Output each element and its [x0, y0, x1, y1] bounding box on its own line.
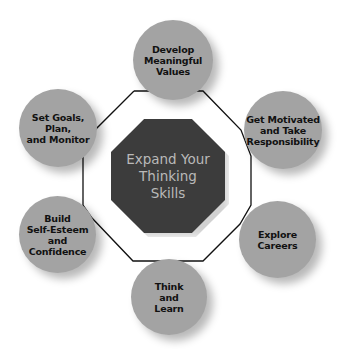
- node-label: Set Goals, Plan, and Monitor: [19, 112, 97, 145]
- node-explore-careers: Explore Careers: [239, 201, 316, 278]
- node-develop-values: Develop Meaningful Values: [133, 20, 213, 100]
- node-label: Think and Learn: [154, 281, 183, 314]
- node-get-motivated: Get Motivated and Take Responsibility: [244, 91, 322, 169]
- node-label: Build Self-Esteem and Confidence: [27, 213, 89, 257]
- node-think-learn: Think and Learn: [131, 259, 207, 335]
- node-label: Get Motivated and Take Responsibility: [246, 114, 320, 147]
- node-set-goals: Set Goals, Plan, and Monitor: [19, 89, 97, 167]
- node-label: Explore Careers: [258, 229, 298, 251]
- node-label: Develop Meaningful Values: [144, 44, 202, 77]
- center-label: Expand Your Thinking Skills: [126, 151, 210, 202]
- center-octagon: Expand Your Thinking Skills: [111, 119, 225, 233]
- node-build-self-esteem: Build Self-Esteem and Confidence: [19, 196, 96, 273]
